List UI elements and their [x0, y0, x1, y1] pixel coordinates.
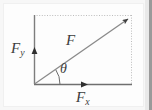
vertical-component-subscript: y — [20, 47, 24, 58]
horizontal-component-subscript: x — [85, 96, 89, 107]
vertical-component-symbol: F — [11, 40, 20, 56]
vertical-component-label: Fy — [11, 41, 25, 58]
figure-root: Fy F θ Fx — [0, 0, 152, 110]
horizontal-component-symbol: F — [76, 89, 85, 105]
angle-label: θ — [60, 62, 67, 76]
vertical-component-arrowhead — [32, 47, 38, 54]
resultant-vector-label: F — [66, 33, 75, 48]
resultant-vector — [35, 19, 129, 84]
horizontal-component-label: Fx — [76, 90, 90, 107]
horizontal-component-arrowhead — [81, 82, 88, 88]
